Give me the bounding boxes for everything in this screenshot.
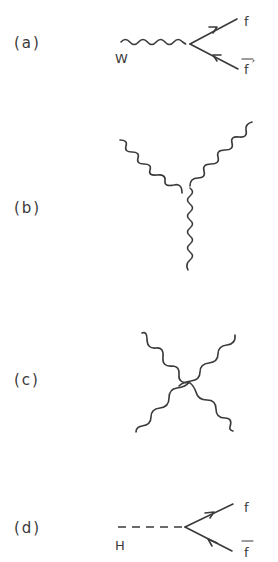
- gauge-boson-wavy-line-right: [190, 122, 252, 186]
- panel-label-a: (a): [14, 34, 41, 52]
- fermion-label-f: f: [244, 500, 249, 515]
- gauge-boson-wavy-line-bottom: [187, 188, 193, 270]
- w-boson-label: W: [115, 51, 128, 66]
- antifermion-label-fbar: f: [244, 545, 249, 560]
- panel-a: (a) W f f ′: [14, 14, 255, 77]
- higgs-label: H: [115, 538, 125, 553]
- gauge-boson-wavy-line-top-right: [179, 335, 235, 386]
- w-boson-wavy-line: [121, 40, 186, 45]
- fermion-label-f: f: [244, 14, 249, 29]
- fermion-line-f: [185, 504, 233, 527]
- antifermion-label-fbar: f: [244, 62, 249, 77]
- gauge-boson-wavy-line-top-left: [142, 333, 189, 383]
- prime-mark: ′: [252, 57, 255, 72]
- panel-label-b: (b): [14, 199, 41, 217]
- panel-b: (b): [14, 122, 252, 270]
- panel-c: (c): [14, 333, 235, 432]
- panel-d: (d) H f f: [14, 500, 253, 560]
- arrow-inward-icon: [208, 539, 217, 546]
- arrow-outward-icon: [209, 27, 217, 33]
- gauge-boson-wavy-line-bottom-right: [189, 382, 233, 431]
- gauge-boson-wavy-line-bottom-left: [136, 382, 189, 432]
- panel-label-c: (c): [14, 371, 40, 389]
- feynman-diagrams-figure: (a) W f f ′ (b) (c) (d) H: [0, 0, 278, 562]
- panel-label-d: (d): [14, 519, 41, 537]
- gauge-boson-wavy-line-left: [120, 140, 182, 193]
